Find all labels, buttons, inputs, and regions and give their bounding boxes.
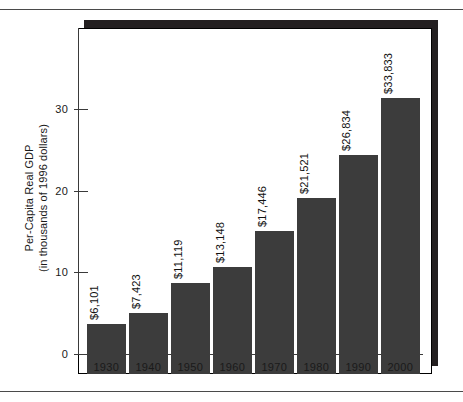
x-tick-label-1990: 1990 — [339, 361, 378, 373]
plot-area: 0102030 $6,101$7,423$11,119$13,148$17,44… — [78, 28, 432, 374]
bar-value-label: $26,834 — [340, 110, 352, 151]
y-tick-label: 10 — [55, 266, 68, 278]
bar-1980[interactable]: $21,521 — [297, 198, 336, 374]
x-tick-label-2000: 2000 — [381, 361, 420, 373]
bar-value-label: $13,148 — [214, 221, 226, 262]
y-tick-20: 20 — [74, 191, 88, 192]
y-tick-30: 30 — [74, 109, 88, 110]
x-tick-label-1960: 1960 — [213, 361, 252, 373]
y-tick-0: 0 — [74, 354, 88, 355]
bar-value-label: $33,833 — [382, 52, 394, 93]
x-tick-label-1970: 1970 — [255, 361, 294, 373]
y-tick-label: 20 — [55, 185, 68, 197]
bar-value-label: $21,521 — [298, 153, 310, 194]
y-axis-title: Per-Capita Real GDP (in thousands of 199… — [18, 118, 54, 278]
bar-1960[interactable]: $13,148 — [213, 267, 252, 374]
y-tick-10: 10 — [74, 272, 88, 273]
y-tick-label: 30 — [55, 103, 68, 115]
y-tick-label: 0 — [62, 348, 68, 360]
x-tick-label-1950: 1950 — [171, 361, 210, 373]
x-tick-label-1940: 1940 — [129, 361, 168, 373]
bar-value-label: $6,101 — [88, 285, 100, 320]
bar-chart-figure: Per-Capita Real GDP (in thousands of 199… — [0, 0, 463, 402]
x-tick-label-1980: 1980 — [297, 361, 336, 373]
x-tick-label-1930: 1930 — [87, 361, 126, 373]
y-axis-title-line2: (in thousands of 1996 dollars) — [36, 124, 50, 272]
bar-2000[interactable]: $33,833 — [381, 98, 420, 374]
bar-1970[interactable]: $17,446 — [255, 231, 294, 374]
bar-value-label: $11,119 — [172, 240, 184, 280]
bar-value-label: $7,423 — [130, 275, 142, 310]
bar-value-label: $17,446 — [256, 186, 268, 227]
y-axis-title-line1: Per-Capita Real GDP — [22, 124, 36, 272]
bar-1990[interactable]: $26,834 — [339, 155, 378, 374]
